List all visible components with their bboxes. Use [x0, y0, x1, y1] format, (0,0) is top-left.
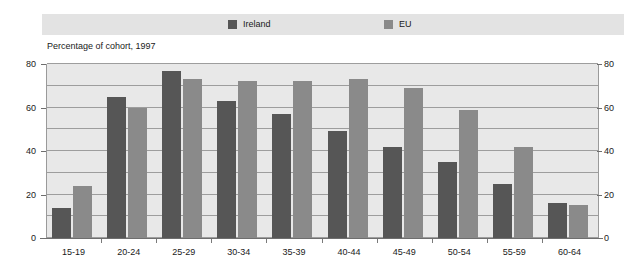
- y-axis-label-left-80: 80: [26, 60, 36, 69]
- y-axis-tick-right-0: [597, 238, 602, 239]
- x-axis-label-45-49: 45-49: [376, 248, 432, 257]
- chart-legend: Ireland EU: [42, 14, 624, 35]
- x-axis-label-30-34: 30-34: [211, 248, 267, 257]
- legend-label-ireland: Ireland: [243, 20, 271, 29]
- y-axis-tick-left-0: [41, 238, 46, 239]
- x-axis-tick: [101, 239, 102, 243]
- bar-group: [102, 64, 157, 238]
- legend-swatch-eu: [384, 20, 393, 29]
- y-axis-tick-right-80: [597, 64, 602, 65]
- y-axis-tick-right-40: [597, 151, 602, 152]
- x-axis-tick: [322, 239, 323, 243]
- y-axis-label-right-20: 20: [604, 191, 614, 200]
- bar-group: [433, 64, 488, 238]
- y-axis-tick-left-40: [41, 151, 46, 152]
- y-axis-label-left-20: 20: [26, 191, 36, 200]
- y-axis-tick-right-20: [597, 195, 602, 196]
- y-axis-label-left-60: 60: [26, 104, 36, 113]
- bar-eu-60-64: [569, 205, 588, 238]
- x-axis-label-15-19: 15-19: [46, 248, 102, 257]
- x-axis-label-60-64: 60-64: [541, 248, 597, 257]
- bar-group: [543, 64, 598, 238]
- x-axis-label-55-59: 55-59: [486, 248, 542, 257]
- x-axis-label-20-24: 20-24: [101, 248, 157, 257]
- y-axis-tick-left-80: [41, 64, 46, 65]
- x-axis-label-25-29: 25-29: [156, 248, 212, 257]
- bar-ireland-30-34: [217, 101, 236, 238]
- x-axis-tick: [211, 239, 212, 243]
- bar-group: [488, 64, 543, 238]
- x-axis-tick: [487, 239, 488, 243]
- bar-ireland-40-44: [328, 131, 347, 238]
- bar-group: [212, 64, 267, 238]
- legend-swatch-ireland: [228, 20, 237, 29]
- bar-eu-50-54: [459, 110, 478, 238]
- x-axis-tick: [266, 239, 267, 243]
- bar-group: [47, 64, 102, 238]
- x-axis-label-35-39: 35-39: [266, 248, 322, 257]
- bar-ireland-50-54: [438, 162, 457, 238]
- bar-ireland-20-24: [107, 97, 126, 238]
- bar-ireland-15-19: [52, 208, 71, 238]
- y-axis-tick-left-20: [41, 195, 46, 196]
- chart-page: Ireland EU Percentage of cohort, 1997 15…: [0, 0, 642, 269]
- x-axis-label-50-54: 50-54: [431, 248, 487, 257]
- y-axis-label-left-40: 40: [26, 147, 36, 156]
- bar-group: [157, 64, 212, 238]
- y-axis-label-right-0: 0: [604, 234, 609, 243]
- bar-ireland-25-29: [162, 71, 181, 238]
- bar-ireland-55-59: [493, 184, 512, 238]
- y-axis-tick-right-60: [597, 108, 602, 109]
- bar-eu-45-49: [404, 88, 423, 238]
- bar-eu-40-44: [349, 79, 368, 238]
- bar-eu-35-39: [293, 81, 312, 238]
- x-axis-tick: [432, 239, 433, 243]
- bar-ireland-60-64: [548, 203, 567, 238]
- bar-ireland-35-39: [272, 114, 291, 238]
- legend-label-eu: EU: [399, 20, 412, 29]
- x-axis-tick: [156, 239, 157, 243]
- legend-entry-ireland: Ireland: [228, 14, 271, 35]
- bar-group: [378, 64, 433, 238]
- bar-eu-55-59: [514, 147, 533, 238]
- bar-group: [323, 64, 378, 238]
- x-axis-tick: [377, 239, 378, 243]
- y-axis-label-left-0: 0: [31, 234, 36, 243]
- x-axis-tick: [542, 239, 543, 243]
- bar-eu-20-24: [128, 108, 147, 239]
- y-axis-label-right-60: 60: [604, 104, 614, 113]
- bar-eu-15-19: [73, 186, 92, 238]
- bar-eu-25-29: [183, 79, 202, 238]
- x-axis-label-40-44: 40-44: [321, 248, 377, 257]
- y-axis-label-right-40: 40: [604, 147, 614, 156]
- chart-plot-area: [46, 64, 599, 238]
- chart-bars: [47, 64, 598, 238]
- legend-entry-eu: EU: [384, 14, 412, 35]
- y-axis-label-right-80: 80: [604, 60, 614, 69]
- bar-group: [267, 64, 322, 238]
- bar-ireland-45-49: [383, 147, 402, 238]
- y-axis-tick-left-60: [41, 108, 46, 109]
- bar-eu-30-34: [238, 81, 257, 238]
- chart-subtitle: Percentage of cohort, 1997: [47, 41, 156, 51]
